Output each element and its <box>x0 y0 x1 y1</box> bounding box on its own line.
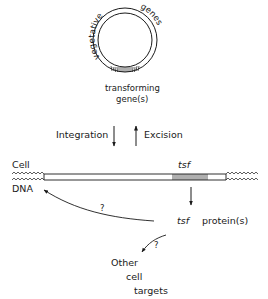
cell-dna-wavy-left <box>12 172 44 180</box>
cell-targets-label: cell <box>126 272 142 282</box>
excision-label: Excision <box>144 130 183 140</box>
feedback-question-mark: ? <box>100 204 105 213</box>
integration-label: Integration <box>56 130 108 140</box>
diagram-canvas: vegetative genes <box>0 0 268 299</box>
dna-label: DNA <box>12 184 33 194</box>
tsf-gene-label: tsf <box>178 160 190 170</box>
targets-label: targets <box>134 286 168 296</box>
tsf-product-label: tsf <box>177 216 189 226</box>
genes-segment-label: gene(s) <box>116 95 148 104</box>
protein-label: protein(s) <box>202 216 248 226</box>
feedback-arrow-to-dna <box>44 190 154 221</box>
cell-label: Cell <box>12 160 30 170</box>
cell-dna-wavy-right <box>226 172 258 180</box>
tsf-gene-hatch <box>173 174 207 180</box>
targets-question-mark: ? <box>154 241 159 250</box>
transforming-label: transforming <box>105 84 160 93</box>
other-label: Other <box>111 258 138 268</box>
